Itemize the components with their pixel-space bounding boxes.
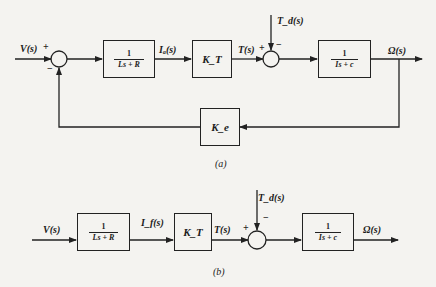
feedback-gain-block-a: K_e — [200, 108, 240, 146]
feedback-gain-label: K_e — [211, 121, 229, 133]
input-label-b: V(s) — [43, 225, 60, 235]
mechanical-numerator: 1 — [339, 50, 351, 59]
electrical-denominator-b: Ls + R — [89, 232, 119, 242]
torque-gain-block-b: K_T — [174, 213, 212, 251]
torque-label-a: T(s) — [238, 45, 255, 55]
electrical-transfer-block-b: 1 Ls + R — [77, 213, 130, 251]
electrical-numerator: 1 — [123, 50, 135, 59]
caption-a: (a) — [215, 158, 227, 169]
caption-b: (b) — [213, 266, 225, 277]
summing-junction-1 — [51, 51, 67, 67]
sum1-minus-sign: − — [47, 64, 53, 74]
torque-gain-label: K_T — [202, 53, 222, 65]
input-label-a: V(s) — [20, 44, 37, 54]
sum1-plus-sign: + — [43, 42, 49, 52]
current-label-b: I_f(s) — [141, 218, 164, 228]
block-diagram-figure: V(s) + − 1 Ls + R Iₐ(s) K_T T(s) + − T_d… — [0, 0, 436, 287]
mechanical-transfer-block-a: 1 Is + c — [318, 40, 371, 78]
mechanical-denominator-b: Is + c — [315, 232, 341, 242]
torque-gain-label-b: K_T — [183, 226, 203, 238]
output-label-b: Ω(s) — [363, 225, 381, 235]
sum2-minus-sign: − — [276, 40, 282, 50]
electrical-denominator: Ls + R — [114, 59, 144, 69]
current-label-a: Iₐ(s) — [159, 45, 176, 55]
electrical-transfer-block-a: 1 Ls + R — [103, 40, 155, 78]
torque-label-b: T(s) — [214, 225, 231, 235]
mechanical-denominator: Is + c — [331, 59, 357, 69]
sum2-plus-sign: + — [259, 43, 265, 53]
sum-plus-sign-b: + — [243, 223, 249, 233]
output-label-a: Ω(s) — [388, 46, 406, 56]
mechanical-numerator-b: 1 — [322, 223, 334, 232]
disturbance-label-a: T_d(s) — [277, 16, 304, 26]
electrical-numerator-b: 1 — [98, 223, 110, 232]
disturbance-label-b: T_d(s) — [258, 193, 285, 203]
sum-minus-sign-b: − — [263, 213, 269, 223]
mechanical-transfer-block-b: 1 Is + c — [302, 213, 354, 251]
torque-gain-block-a: K_T — [192, 40, 232, 78]
